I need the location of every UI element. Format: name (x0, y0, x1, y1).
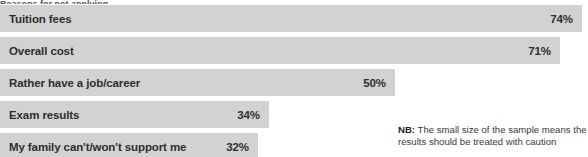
horizontal-bar-chart: Reasons for not applying Tuition fees 74… (0, 0, 588, 157)
sample-size-note: NB: The small size of the sample means t… (398, 124, 588, 148)
bar-row: Rather have a job/career 50% (0, 69, 588, 96)
bar-value: 50% (363, 77, 395, 89)
bar-label: Tuition fees (0, 13, 71, 25)
clipped-chart-title: Reasons for not applying (0, 0, 120, 4)
bar-exam-results: Exam results 34% (0, 101, 269, 128)
bar-label: Rather have a job/career (0, 77, 140, 89)
bar-value: 34% (237, 109, 269, 121)
bar-value: 32% (226, 141, 258, 153)
bar-value: 74% (550, 13, 582, 25)
bar-family-cant-wont-support-me: My family can't/won't support me 32% (0, 133, 258, 157)
bar-label: Exam results (0, 109, 79, 121)
bar-row: Tuition fees 74% (0, 5, 588, 32)
bar-row: Overall cost 71% (0, 37, 588, 64)
bar-overall-cost: Overall cost 71% (0, 37, 560, 64)
note-prefix: NB: (398, 124, 415, 135)
note-text: The small size of the sample means the r… (398, 124, 587, 147)
bar-label: My family can't/won't support me (0, 141, 186, 153)
bar-rather-have-a-job-career: Rather have a job/career 50% (0, 69, 395, 96)
bar-label: Overall cost (0, 45, 74, 57)
bar-tuition-fees: Tuition fees 74% (0, 5, 582, 32)
bar-value: 71% (528, 45, 560, 57)
